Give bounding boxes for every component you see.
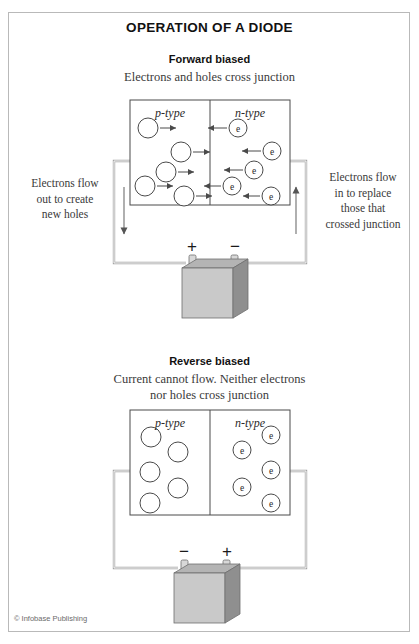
reverse-n-type-label: n-type bbox=[210, 416, 290, 431]
forward-note-right: Electrons flow in to replace those that … bbox=[308, 170, 418, 232]
forward-battery-positive-sign: + bbox=[182, 236, 202, 257]
forward-note-left: Electrons flow out to create new holes bbox=[10, 176, 120, 223]
electron-label: e bbox=[269, 466, 273, 476]
forward-biased-heading: Forward biased bbox=[0, 53, 419, 67]
electron-label: e bbox=[240, 483, 244, 493]
copyright-notice: © Infobase Publishing bbox=[14, 614, 87, 623]
forward-battery-negative-sign: − bbox=[225, 236, 245, 257]
forward-p-type-label: p-type bbox=[130, 106, 210, 121]
electron-label: e bbox=[269, 192, 273, 202]
diagram-page: e e e e e bbox=[0, 0, 419, 644]
electron-label: e bbox=[252, 166, 256, 176]
electron-label: e bbox=[240, 446, 244, 456]
forward-n-type-text: n-type bbox=[235, 106, 265, 120]
electron-label: e bbox=[270, 147, 274, 157]
page-title: OPERATION OF A DIODE bbox=[0, 20, 419, 37]
forward-biased-subheading: Electrons and holes cross junction bbox=[0, 70, 419, 86]
reverse-p-type-text: p-type bbox=[155, 416, 185, 430]
forward-n-type-label: n-type bbox=[210, 106, 290, 121]
electron-label: e bbox=[269, 499, 273, 509]
electron-label: e bbox=[230, 182, 234, 192]
electron-label: e bbox=[236, 124, 240, 134]
reverse-battery bbox=[174, 560, 240, 623]
reverse-p-type-label: p-type bbox=[130, 416, 210, 431]
reverse-battery-negative-sign: − bbox=[174, 541, 194, 562]
forward-p-type-text: p-type bbox=[155, 106, 185, 120]
diagram-canvas: e e e e e bbox=[0, 0, 419, 644]
forward-battery bbox=[182, 255, 248, 318]
reverse-biased-subheading: Current cannot flow. Neither electrons n… bbox=[0, 372, 419, 403]
electron-label: e bbox=[269, 431, 273, 441]
reverse-n-type-text: n-type bbox=[235, 416, 265, 430]
reverse-biased-heading: Reverse biased bbox=[0, 355, 419, 369]
reverse-battery-positive-sign: + bbox=[217, 541, 237, 562]
